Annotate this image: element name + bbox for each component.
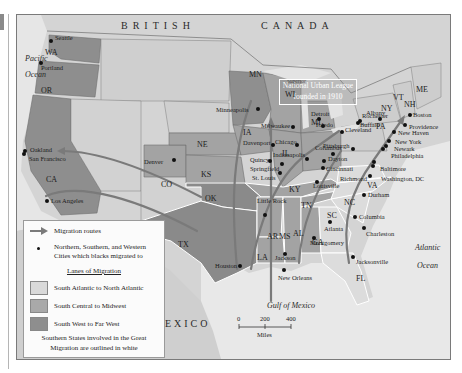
state-label-nc: NC <box>344 199 355 207</box>
legend-lanes-heading: Lanes of Migration <box>24 267 164 275</box>
state-label-mn: MN <box>249 71 262 79</box>
city-dot-icon <box>291 125 295 129</box>
city-label: Cincinnati <box>326 166 353 173</box>
legend-routes-label: Migration routes <box>54 227 101 235</box>
swatch-atlantic-icon <box>30 281 48 295</box>
page-margin-line <box>8 14 9 369</box>
scale-tick-0: 0 <box>237 315 240 322</box>
city-dot-icon <box>22 152 26 156</box>
city-dot-icon <box>351 147 355 151</box>
city-label: Seattle <box>55 35 73 42</box>
city-label: Little Rock <box>257 198 286 205</box>
legend-note-line-1: Southern States involved in the Great <box>42 334 147 342</box>
legend-lane-2-label: South Central to Midwest <box>54 302 126 310</box>
state-label-nh: NH <box>404 101 416 109</box>
legend-lane-west: South West to Far West <box>30 317 120 331</box>
city-label: Indianapolis <box>273 152 305 159</box>
state-label-me: ME <box>416 86 428 94</box>
legend-lane-atlantic: South Atlantic to North Atlantic <box>30 281 143 295</box>
label-british: BRITISH <box>121 21 195 31</box>
state-label-sc: SC <box>327 212 337 220</box>
scale-tick-200: 200 <box>260 315 270 322</box>
city-dot-icon <box>368 174 372 178</box>
city-label: Boston <box>413 112 431 119</box>
city-label: Louisville <box>313 183 339 190</box>
city-label: Columbia <box>359 214 385 221</box>
city-label: Albany <box>366 110 385 117</box>
city-label: Baltimore <box>380 166 406 173</box>
city-label: Quincy <box>250 157 269 164</box>
city-label: San Francisco <box>29 156 66 163</box>
city-label: Durham <box>368 192 389 199</box>
city-dot-icon <box>321 166 325 170</box>
city-dot-icon <box>238 264 242 268</box>
legend-note: Southern States involved in the Great Mi… <box>24 333 164 353</box>
state-label-ok: OK <box>205 195 217 203</box>
city-label: Denver <box>144 159 163 166</box>
city-dot-icon <box>392 130 396 134</box>
city-dot-icon <box>49 39 53 43</box>
state-label-ar: AR <box>267 233 278 241</box>
state-label-or: OR <box>41 87 52 95</box>
city-dot-icon <box>403 123 407 127</box>
state-label-vt: VT <box>393 94 404 102</box>
scale-unit: Miles <box>257 331 272 338</box>
migration-map: BRITISH CANADA MEXICO Pacific Ocean Atla… <box>16 14 451 360</box>
legend-cities-line-2: Cities which blacks migrated to <box>54 252 143 260</box>
label-atlantic: Atlantic <box>415 244 440 252</box>
city-label: Buffalo <box>360 122 380 129</box>
page-edge-block <box>0 14 4 30</box>
state-label-fl: FL <box>356 275 365 283</box>
city-label: Los Angeles <box>51 198 83 205</box>
city-label: New Orleans <box>278 275 312 282</box>
city-label: Detroit <box>311 111 329 118</box>
state-label-ms: MS <box>279 233 291 241</box>
state-label-tx: TX <box>178 241 189 249</box>
city-label: Toledo <box>315 122 333 129</box>
legend-note-line-2: Migration are outlined in white <box>50 344 137 352</box>
city-dot-icon <box>378 117 382 121</box>
city-label: New Haven <box>398 130 429 137</box>
city-label: Milwaukee <box>261 123 290 130</box>
label-gulf-of-mexico: Gulf of Mexico <box>267 302 315 310</box>
label-atlantic-ocean: Ocean <box>417 262 438 270</box>
state-label-ne: NE <box>197 141 208 149</box>
legend-lane-3-label: South West to Far West <box>54 320 120 328</box>
city-dot-icon <box>328 220 332 224</box>
legend-lane-1-label: South Atlantic to North Atlantic <box>54 284 143 292</box>
state-label-la: LA <box>257 254 268 262</box>
scale-tick-400: 400 <box>286 315 296 322</box>
city-label: Pittsburgh <box>323 143 350 150</box>
city-dot-icon <box>340 130 344 134</box>
city-dot-icon <box>322 159 326 163</box>
city-label: Chicago <box>275 139 297 146</box>
legend-cities: Northern, Southern, and Western Cities w… <box>30 243 146 261</box>
city-label: Washington, DC <box>381 176 424 183</box>
city-dot-icon <box>282 268 286 272</box>
city-dot-icon <box>280 162 284 166</box>
city-label: Jacksonville <box>356 259 388 266</box>
city-label: Montgomery <box>310 240 344 247</box>
state-label-ca: CA <box>46 176 57 184</box>
label-canada: CANADA <box>261 21 334 31</box>
city-dot-icon <box>37 247 40 250</box>
legend-routes: Migration routes <box>30 227 101 235</box>
city-dot-icon <box>387 139 391 143</box>
scale-bar-line <box>237 323 297 331</box>
city-dot-icon <box>351 255 355 259</box>
route-arrow-icon <box>30 227 48 235</box>
state-label-tn: TN <box>301 202 312 210</box>
city-label: Davenport <box>243 140 270 147</box>
city-dot-icon <box>256 107 260 111</box>
state-label-wa: WA <box>45 49 57 57</box>
city-label: Philadelphia <box>391 153 424 160</box>
city-label: Atlanta <box>324 226 343 233</box>
city-label: Portland <box>41 65 63 72</box>
swatch-central-icon <box>30 299 48 313</box>
city-dot-icon <box>305 157 309 161</box>
label-pacific-ocean: Ocean <box>25 71 46 79</box>
city-dot-icon <box>381 147 385 151</box>
city-dot-icon <box>358 119 362 123</box>
city-label: Oakland <box>30 147 52 154</box>
city-label: Dayton <box>328 156 347 163</box>
